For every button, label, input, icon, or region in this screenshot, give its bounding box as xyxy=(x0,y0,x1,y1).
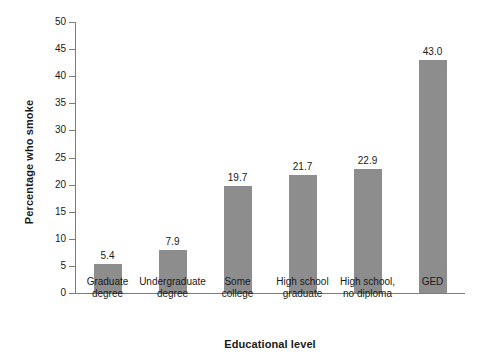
bar-value-label: 22.9 xyxy=(358,155,377,166)
y-tick-mark xyxy=(69,239,75,240)
bar-value-label: 43.0 xyxy=(423,46,442,57)
y-tick-label: 40 xyxy=(55,71,66,81)
y-tick-mark xyxy=(69,266,75,267)
y-tick-label: 45 xyxy=(55,44,66,54)
bar-chart: Percentage who smoke 0510152025303540455… xyxy=(0,0,490,362)
y-tick-mark xyxy=(69,130,75,131)
y-tick-label: 5 xyxy=(60,261,66,271)
y-tick-mark xyxy=(69,103,75,104)
y-tick-mark xyxy=(69,212,75,213)
plot-area: 05101520253035404550 5.47.919.721.722.94… xyxy=(75,22,465,293)
y-axis-title: Percentage who smoke xyxy=(22,12,36,312)
y-tick-mark xyxy=(69,22,75,23)
y-tick-mark xyxy=(69,158,75,159)
bar-value-label: 5.4 xyxy=(101,250,115,261)
y-tick-mark xyxy=(69,185,75,186)
x-axis-title: Educational level xyxy=(75,338,465,350)
bar: 22.9 xyxy=(354,169,382,293)
bar-value-label: 19.7 xyxy=(228,172,247,183)
bar-value-label: 7.9 xyxy=(166,236,180,247)
bar: 43.0 xyxy=(419,60,447,293)
y-tick-label: 20 xyxy=(55,180,66,190)
x-tick-label: GED xyxy=(391,276,475,288)
y-tick-label: 25 xyxy=(55,153,66,163)
y-axis-line xyxy=(75,22,76,293)
bar-value-label: 21.7 xyxy=(293,161,312,172)
y-tick-mark xyxy=(69,49,75,50)
y-tick-label: 15 xyxy=(55,207,66,217)
y-tick-mark xyxy=(69,76,75,77)
y-tick-label: 30 xyxy=(55,125,66,135)
y-tick-label: 35 xyxy=(55,98,66,108)
y-tick-label: 50 xyxy=(55,17,66,27)
y-tick-label: 10 xyxy=(55,234,66,244)
